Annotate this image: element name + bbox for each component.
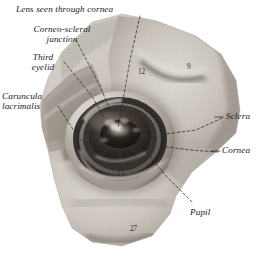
label-cornea: Cornea <box>222 145 250 155</box>
number-label-9: 9 <box>187 63 191 71</box>
label-pupil: Pupil <box>190 207 210 217</box>
label-lens-seen-through-cornea: Lens seen through cornea <box>16 4 113 14</box>
number-label-12: 12 <box>138 68 145 76</box>
number-label-13: 13 <box>117 170 124 178</box>
figure-plate: Lens seen through cornea Corneo-scleral … <box>0 0 262 266</box>
label-sclera: Sclera <box>226 111 250 121</box>
number-label-27: 27 <box>130 225 137 233</box>
label-caruncula-lacrimalis: Caruncula lacrimalis <box>2 91 42 112</box>
label-corneo-scleral-junction: Corneo-scleral junction <box>14 24 110 45</box>
label-third-eyelid: Third eyelid <box>14 52 72 73</box>
